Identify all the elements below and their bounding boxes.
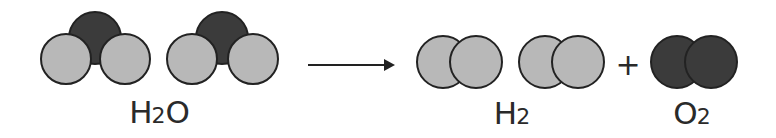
hydrogen-atom	[450, 36, 502, 88]
hydrogen-atom	[228, 34, 278, 84]
o2-molecule	[651, 36, 737, 88]
water-label: H2O	[129, 97, 189, 128]
hydrogen-atom	[41, 34, 91, 84]
h2o-molecule	[41, 12, 150, 84]
hydrogen-label-h: H	[494, 95, 516, 131]
oxygen-atom	[685, 36, 737, 88]
hydrogen-label-subscript: 2	[516, 104, 530, 129]
reaction-arrow	[308, 59, 395, 71]
hydrogen-atom	[167, 34, 217, 84]
hydrogen-label: H2	[494, 98, 530, 129]
oxygen-label-subscript: 2	[697, 104, 711, 129]
water-label-subscript: 2	[151, 103, 165, 128]
arrow-head-icon	[384, 59, 395, 71]
oxygen-label-o: O	[673, 95, 696, 131]
plus-sign: +	[615, 50, 640, 80]
reactant-water-molecules	[41, 12, 278, 84]
water-label-o: O	[165, 94, 188, 130]
oxygen-label: O2	[673, 98, 710, 129]
molecules-canvas	[0, 0, 776, 138]
product-molecules	[417, 36, 737, 88]
water-label-h: H	[129, 94, 151, 130]
reaction-diagram: H2O H2 O2 +	[0, 0, 776, 138]
h2o-molecule	[167, 12, 278, 84]
h2-molecule	[417, 36, 502, 88]
h2-molecule	[519, 36, 604, 88]
hydrogen-atom	[552, 36, 604, 88]
hydrogen-atom	[100, 34, 150, 84]
